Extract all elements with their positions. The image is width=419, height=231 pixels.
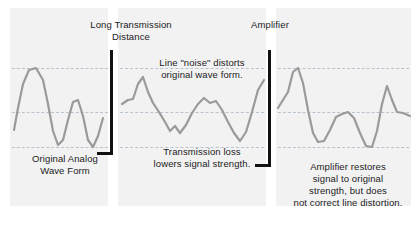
label-amplifier: Amplifier (228, 19, 312, 31)
wave-amplified-trace (278, 68, 410, 147)
label-transmission-loss: Transmission loss lowers signal strength… (140, 146, 264, 170)
marker-stem (268, 50, 271, 167)
wave-degraded-trace (122, 77, 264, 141)
long-transmission-distance-marker (110, 50, 113, 155)
label-original-analog-wave-form: Original Analog Wave Form (13, 153, 117, 177)
label-long-transmission-distance: Long Transmission Distance (72, 19, 190, 43)
label-amplifier-restores: Amplifier restores signal to original st… (280, 161, 416, 209)
wave-original-trace (14, 68, 103, 147)
diagram-canvas: Long Transmission Distance Amplifier Lin… (0, 0, 419, 231)
amplifier-marker (268, 50, 271, 167)
marker-stem (110, 50, 113, 155)
label-line-noise: Line "noise" distorts original wave form… (140, 57, 264, 81)
